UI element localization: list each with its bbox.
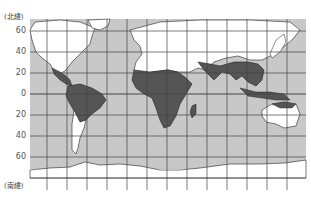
map-graphic: [0, 0, 311, 198]
world-map: (北緯) 60 40 20 0 20 40 60 (南緯): [0, 0, 311, 198]
